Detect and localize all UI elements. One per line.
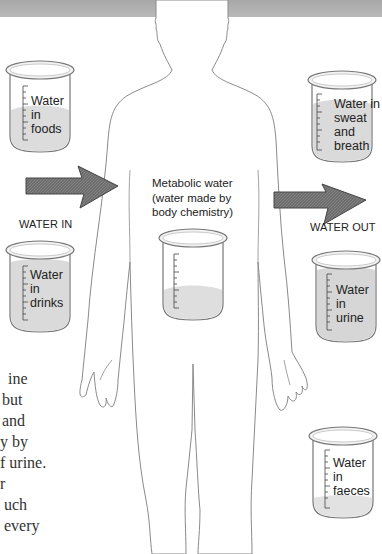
metabolic-water-label: Metabolic water (water made by body chem… — [152, 176, 272, 220]
text-line-8: every — [0, 515, 46, 536]
beaker-faeces-label: Waterinfaeces — [333, 456, 370, 498]
water-out-label: WATER OUT — [310, 221, 376, 233]
body-text-fragment: ine but and y by f urine. r uch every — [0, 368, 46, 536]
beaker-urine-label: Waterinurine — [336, 283, 369, 325]
beaker-drinks-label: Waterindrinks — [30, 268, 63, 310]
beaker-sweat-label: Water insweatandbreath — [334, 97, 380, 153]
text-line-1: ine — [0, 368, 46, 389]
water-in-arrow-icon — [24, 164, 120, 210]
metabolic-line-3: body chemistry) — [152, 205, 272, 220]
text-line-2: but — [0, 389, 46, 410]
water-in-label: WATER IN — [19, 218, 72, 230]
metabolic-line-1: Metabolic water — [152, 176, 272, 191]
beaker-foods-label: Waterinfoods — [31, 94, 64, 136]
text-line-7: uch — [0, 494, 46, 515]
beaker-metabolic-icon — [157, 226, 229, 322]
text-line-5: f urine. — [0, 452, 46, 473]
text-line-3: and — [0, 410, 46, 431]
text-line-4: y by — [0, 431, 46, 452]
metabolic-line-2: (water made by — [152, 191, 272, 206]
text-line-6: r — [0, 473, 46, 494]
